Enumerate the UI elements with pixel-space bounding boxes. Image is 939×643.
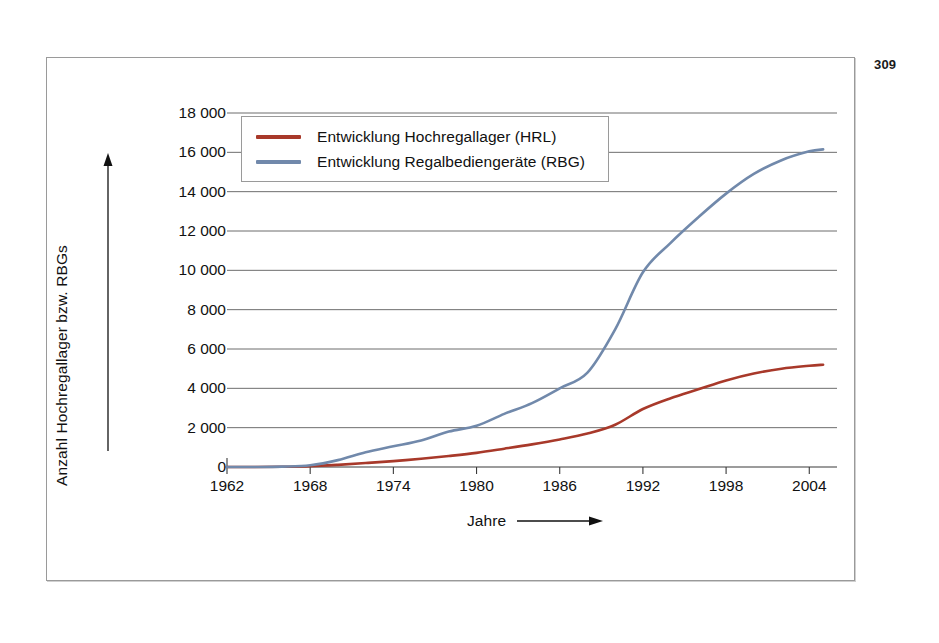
- series-lines: [227, 149, 823, 467]
- y-tick-label: 0: [217, 458, 226, 476]
- legend-label-rbg: Entwicklung Regalbediengeräte (RBG): [317, 153, 585, 171]
- y-axis-tick-labels: 02 0004 0006 0008 00010 00012 00014 0001…: [147, 58, 226, 582]
- figure-frame: 02 0004 0006 0008 00010 00012 00014 0001…: [46, 57, 855, 581]
- y-tick-label: 18 000: [179, 104, 226, 122]
- x-tick-label: 1998: [709, 477, 743, 495]
- chart-legend: Entwicklung Hochregallager (HRL) Entwick…: [241, 116, 609, 182]
- y-tick-label: 4 000: [187, 379, 226, 397]
- x-axis-arrow-icon: [517, 515, 603, 527]
- y-axis-arrow-icon: [102, 153, 114, 453]
- x-tick-label: 1992: [626, 477, 660, 495]
- series-line-rbg: [227, 149, 823, 467]
- x-tick-label: 1980: [459, 477, 493, 495]
- legend-label-hrl: Entwicklung Hochregallager (HRL): [317, 128, 556, 146]
- x-axis-title-group: Jahre: [467, 506, 603, 536]
- y-tick-label: 14 000: [179, 183, 226, 201]
- legend-item-hrl: Entwicklung Hochregallager (HRL): [256, 124, 608, 149]
- x-tick-label: 2004: [792, 477, 826, 495]
- x-tick-marks: [227, 467, 809, 474]
- legend-item-rbg: Entwicklung Regalbediengeräte (RBG): [256, 149, 608, 174]
- x-axis-tick-labels: 19621968197419801986199219982004: [47, 477, 856, 501]
- page-number: 309: [874, 57, 896, 72]
- x-tick-label: 1974: [376, 477, 410, 495]
- chart-plot-area: 02 0004 0006 0008 00010 00012 00014 0001…: [47, 58, 856, 582]
- y-tick-label: 8 000: [187, 301, 226, 319]
- series-line-hrl: [227, 365, 823, 467]
- x-tick-label: 1968: [293, 477, 327, 495]
- legend-swatch-rbg: [256, 160, 301, 164]
- y-tick-label: 10 000: [179, 261, 226, 279]
- x-tick-label: 1962: [210, 477, 244, 495]
- y-axis-title-group: Anzahl Hochregallager bzw. RBGs: [33, 98, 79, 518]
- x-tick-label: 1986: [542, 477, 576, 495]
- y-axis-title: Anzahl Hochregallager bzw. RBGs: [53, 245, 71, 486]
- x-axis-title: Jahre: [467, 512, 506, 530]
- legend-swatch-hrl: [256, 135, 301, 139]
- y-tick-label: 12 000: [179, 222, 226, 240]
- y-tick-label: 16 000: [179, 143, 226, 161]
- y-tick-label: 2 000: [187, 419, 226, 437]
- y-tick-label: 6 000: [187, 340, 226, 358]
